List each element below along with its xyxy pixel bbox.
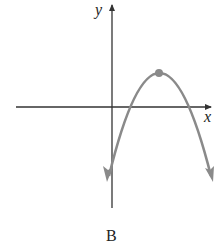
parabola-curve: [109, 73, 211, 176]
y-axis-label: y: [93, 1, 103, 19]
figure-label: B: [106, 227, 117, 244]
graph-figure: y x B: [0, 0, 214, 251]
vertex-point: [155, 69, 163, 77]
x-axis-label: x: [203, 108, 211, 125]
